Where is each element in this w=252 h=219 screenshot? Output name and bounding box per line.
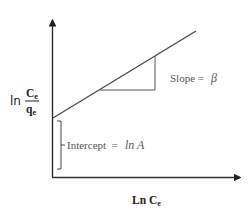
slope-label: Slope = β (170, 71, 217, 85)
intercept-text: Intercept = (67, 139, 121, 151)
x-axis-label: Ln Ce (132, 194, 161, 208)
beta-symbol: β (210, 71, 217, 85)
y-label-prefix: ln (10, 94, 21, 108)
intercept-label: Intercept = ln A (67, 138, 145, 152)
y-label-numerator: Ce (26, 87, 38, 101)
slope-text: Slope = (170, 72, 204, 84)
y-label-denominator: qe (26, 103, 36, 117)
intercept-bracket (57, 121, 65, 169)
intercept-expression: ln A (125, 138, 145, 152)
isotherm-diagram: ln Ce qe Slope = β Intercept = ln A Ln C… (0, 0, 252, 219)
y-axis-label: ln Ce qe (10, 87, 39, 117)
